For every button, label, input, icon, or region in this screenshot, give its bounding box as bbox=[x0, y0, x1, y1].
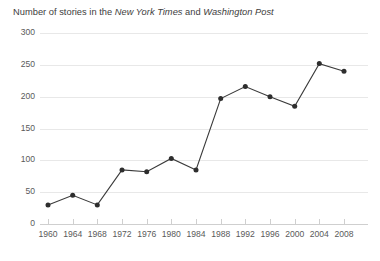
data-point bbox=[169, 156, 174, 161]
data-point bbox=[218, 96, 223, 101]
data-point bbox=[95, 202, 100, 207]
plot-area: 050100150200250300 196019641968197219761… bbox=[0, 0, 380, 261]
data-point bbox=[317, 61, 322, 66]
data-point bbox=[292, 104, 297, 109]
data-series-svg bbox=[0, 0, 380, 261]
data-point bbox=[194, 167, 199, 172]
data-point bbox=[144, 169, 149, 174]
chart-figure: Number of stories in the New York Times … bbox=[0, 0, 380, 261]
data-point bbox=[243, 84, 248, 89]
data-point bbox=[342, 69, 347, 74]
data-point bbox=[46, 202, 51, 207]
series-markers-group bbox=[46, 61, 347, 207]
data-point bbox=[70, 193, 75, 198]
data-point bbox=[268, 94, 273, 99]
data-point bbox=[120, 167, 125, 172]
series-line bbox=[48, 64, 344, 205]
